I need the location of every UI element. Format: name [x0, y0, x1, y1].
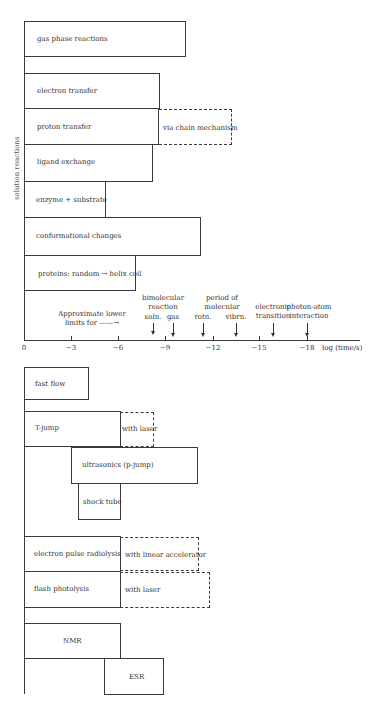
bar-label: flash photolysis	[34, 585, 89, 593]
bar-label: electron transfer	[37, 87, 97, 95]
photon-arrow-icon	[307, 323, 308, 334]
period-text: period of	[204, 294, 239, 303]
bar-label: enzyme + substrate	[36, 196, 107, 204]
bar-label: shock tube	[83, 498, 122, 506]
electronic-transition-label: electronic transition	[255, 303, 291, 321]
bar-flash-photolysis: flash photolysis	[24, 571, 121, 608]
electronic-arrow-icon	[273, 323, 274, 334]
bar-electron-transfer: electron transfer	[24, 73, 160, 109]
bar-label: conformational changes	[36, 232, 121, 240]
bar-gas-phase-reactions: gas phase reactions	[24, 21, 186, 57]
tick-label-15: −15	[252, 344, 267, 352]
bar-electron-pulse-radiolysis: electron pulse radiolysis	[24, 536, 121, 572]
bar-label: fast flow	[35, 380, 65, 388]
interaction-text: interaction	[287, 312, 332, 321]
tick-0	[24, 336, 25, 340]
extension-linear-accelerator: with linear accelerator	[120, 537, 199, 571]
bar-label: ligand exchange	[37, 158, 95, 166]
bar-label: ESR	[129, 673, 144, 681]
photon-atom-text: photon-atom	[287, 303, 332, 312]
bar-label: ultrasonics (p-jump)	[82, 461, 153, 469]
extension-flash-laser: with laser	[120, 572, 210, 608]
tick-label-6: −6	[113, 344, 123, 352]
bar-fast-flow: fast flow	[24, 367, 89, 400]
bar-proteins-helix-coil: proteins: random → helix coil	[24, 255, 136, 291]
bar-label: NMR	[63, 637, 82, 645]
solution-reactions-label: solution reactions	[13, 136, 21, 200]
bar-esr: ESR	[104, 658, 164, 695]
vibrn-label: vibrn.	[226, 313, 247, 322]
tick-18	[307, 336, 308, 340]
x-axis-line	[24, 340, 360, 341]
tick-label-18: −18	[300, 344, 315, 352]
bar-label: gas phase reactions	[37, 35, 108, 43]
soln-label: soln.	[145, 313, 162, 322]
tick-label-9: −9	[160, 344, 170, 352]
molecular-text: molecular	[204, 303, 239, 312]
photon-atom-label: photon-atom interaction	[287, 303, 332, 321]
rotn-label: rotn.	[194, 313, 211, 322]
extension-label: with laser	[125, 586, 160, 594]
bar-proton-transfer: proton transfer	[24, 108, 159, 145]
extension-label: with laser	[122, 425, 157, 433]
bar-label: proton transfer	[37, 123, 91, 131]
soln-arrow-icon	[153, 323, 154, 332]
tick-15	[259, 336, 260, 340]
tick-6	[118, 336, 119, 340]
bar-label: proteins: random → helix coil	[38, 270, 142, 278]
extension-via-chain-mechanism: via chain mechanism	[159, 109, 232, 145]
tick-9	[165, 336, 166, 340]
bimolecular-reaction-label: bimolecular reaction	[142, 294, 184, 312]
tick-3	[71, 336, 72, 340]
x-axis-label: log (time/s)	[322, 344, 362, 352]
bar-label: T-jump	[35, 424, 59, 432]
bar-nmr: NMR	[24, 623, 121, 659]
transition-text: transition	[255, 312, 291, 321]
bar-shock-tube: shock tube	[78, 483, 121, 520]
bar-ligand-exchange: ligand exchange	[24, 144, 153, 182]
tick-label-0: 0	[22, 344, 26, 352]
bar-label: electron pulse radiolysis	[34, 550, 121, 558]
gas-arrow-icon	[173, 323, 174, 334]
caption-line-1: Approximate lower	[58, 310, 126, 319]
electronic-text: electronic	[255, 303, 291, 312]
bar-enzyme-substrate: enzyme + substrate	[24, 181, 106, 218]
lower-limits-caption: Approximate lower limits for ——→	[58, 310, 126, 328]
tick-label-3: −3	[66, 344, 76, 352]
bar-conformational-changes: conformational changes	[24, 217, 201, 256]
tick-label-12: −12	[206, 344, 221, 352]
extension-t-jump-laser: with laser	[120, 412, 154, 447]
caption-line-2: limits for ——→	[58, 319, 126, 328]
gas-label: gas	[167, 313, 179, 322]
bar-t-jump: T-jump	[24, 411, 121, 447]
bimolecular-text: bimolecular	[142, 294, 184, 303]
period-molecular-label: period of molecular	[204, 294, 239, 312]
reaction-text: reaction	[142, 303, 184, 312]
rotn-arrow-icon	[203, 323, 204, 334]
bar-ultrasonics: ultrasonics (p-jump)	[71, 447, 198, 484]
extension-label: with linear accelerator	[125, 551, 206, 559]
tick-12	[213, 336, 214, 340]
vibrn-arrow-icon	[236, 323, 237, 334]
extension-label: via chain mechanism	[163, 124, 238, 132]
